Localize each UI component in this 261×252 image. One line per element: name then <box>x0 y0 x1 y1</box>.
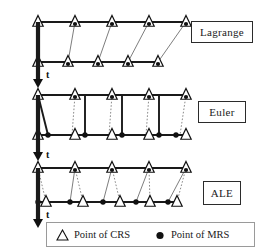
crs-point-euler <box>70 129 80 140</box>
connector-lagrange-thin <box>98 22 112 62</box>
mrs-point-euler <box>82 132 87 137</box>
panel-label-euler: Euler <box>198 101 246 123</box>
mrs-point-overlay-lagrange <box>73 22 77 26</box>
legend-entry-crs: Point of CRS <box>56 229 130 241</box>
filled-circle-icon <box>154 229 166 241</box>
crs-point-euler <box>144 129 154 140</box>
mrs-point-euler <box>156 132 161 137</box>
mrs-point-overlay-ale <box>73 168 77 172</box>
triangle-outline-icon <box>56 229 69 241</box>
crs-point-ale <box>145 196 155 207</box>
mrs-point-ale <box>165 199 170 204</box>
mrs-point-overlay-lagrange <box>66 62 70 66</box>
legend: Point of CRS Point of MRS <box>46 222 255 247</box>
mrs-point-ale <box>100 199 105 204</box>
time-axis-label-lagrange: t <box>46 69 49 80</box>
mrs-point-ale <box>133 199 138 204</box>
crs-point-ale <box>41 196 51 207</box>
mrs-point-euler <box>173 132 178 137</box>
connector-lagrange-thin <box>68 22 75 62</box>
legend-entry-mrs: Point of MRS <box>154 229 229 241</box>
connector-ale-thin <box>103 168 112 202</box>
crs-point-euler <box>107 129 117 140</box>
legend-label-crs: Point of CRS <box>74 229 130 240</box>
mrs-point-overlay-euler <box>184 95 188 99</box>
connector-ale-thin <box>70 168 75 202</box>
mrs-point-overlay-ale <box>184 168 188 172</box>
connector-lagrange-thin <box>128 22 149 62</box>
connector-ale-dotted <box>177 168 186 202</box>
mrs-point-overlay-lagrange <box>156 62 160 66</box>
ale-mesh-description-diagram: Lagrange Euler ALE t t t Point of CRS Po… <box>0 0 261 252</box>
time-axis-label-euler: t <box>46 149 49 160</box>
connector-lagrange-thin <box>158 22 186 62</box>
legend-label-mrs: Point of MRS <box>171 229 229 240</box>
mrs-point-overlay-lagrange <box>126 62 130 66</box>
time-axis-label-ale: t <box>46 209 49 220</box>
mrs-point-overlay-ale <box>110 168 114 172</box>
mrs-point-ale <box>67 199 72 204</box>
crs-point-ale <box>78 196 88 207</box>
mrs-point-euler <box>119 132 124 137</box>
mrs-point-euler <box>45 132 50 137</box>
mrs-point-overlay-euler <box>110 95 114 99</box>
mrs-point-overlay-lagrange <box>96 62 100 66</box>
panel-label-ale: ALE <box>203 181 241 205</box>
mrs-point-overlay-lagrange <box>184 22 188 26</box>
mrs-point-overlay-ale <box>147 168 151 172</box>
mrs-point-overlay-lagrange <box>147 22 151 26</box>
mrs-point-overlay-euler <box>147 95 151 99</box>
crs-point-euler <box>181 129 191 140</box>
mrs-point-overlay-lagrange <box>110 22 114 26</box>
crs-point-ale <box>172 196 182 207</box>
crs-point-ale <box>115 196 125 207</box>
mrs-point-overlay-euler <box>73 95 77 99</box>
panel-label-lagrange: Lagrange <box>191 21 253 43</box>
connector-ale-thin <box>136 168 149 202</box>
